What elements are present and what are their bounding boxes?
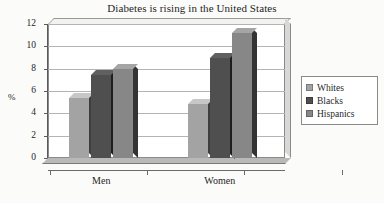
legend-item-label: Blacks xyxy=(317,96,343,106)
bar-front-face xyxy=(91,75,111,158)
bar-front-face xyxy=(69,98,89,158)
x-axis-category-label: Women xyxy=(190,175,250,186)
plot-floor xyxy=(42,158,291,164)
bar-side-face xyxy=(133,64,138,158)
x-axis-category-label: Men xyxy=(71,175,131,186)
x-axis-tick xyxy=(342,170,343,175)
legend-item[interactable]: Blacks xyxy=(306,94,374,107)
y-axis-tick-label: 2 xyxy=(6,130,36,140)
bar-chart: Diabetes is rising in the United States … xyxy=(0,0,384,203)
bar xyxy=(69,98,89,158)
legend-item-label: Whites xyxy=(317,83,344,93)
legend-swatch-icon xyxy=(306,84,313,91)
bar xyxy=(210,58,230,159)
bar-front-face xyxy=(188,104,208,158)
x-axis-line xyxy=(48,170,285,171)
y-axis-tick-label: 4 xyxy=(6,107,36,117)
bar xyxy=(113,69,133,158)
plot-depth-right xyxy=(285,18,291,158)
legend: WhitesBlacksHispanics xyxy=(301,76,378,125)
y-axis-tick-label: 10 xyxy=(6,40,36,50)
y-axis-tick-label: 6 xyxy=(6,85,36,95)
bar-front-face xyxy=(113,69,133,158)
gridline xyxy=(48,24,285,25)
bar xyxy=(188,104,208,158)
y-axis-tick-label: 12 xyxy=(6,18,36,28)
bar-side-face xyxy=(252,28,257,158)
x-axis-tick xyxy=(50,170,51,175)
legend-item[interactable]: Whites xyxy=(306,81,374,94)
bar-front-face xyxy=(210,58,230,159)
x-axis-tick xyxy=(147,170,148,175)
legend-swatch-icon xyxy=(306,110,313,117)
y-axis-tick-label: 8 xyxy=(6,63,36,73)
bar xyxy=(91,75,111,158)
bar xyxy=(232,33,252,158)
chart-title: Diabetes is rising in the United States xyxy=(0,2,384,14)
legend-item-label: Hispanics xyxy=(317,109,354,119)
legend-item[interactable]: Hispanics xyxy=(306,107,374,120)
bar-front-face xyxy=(232,33,252,158)
y-axis-tick-label: 0 xyxy=(6,152,36,162)
legend-swatch-icon xyxy=(306,97,313,104)
plot-area xyxy=(48,24,285,158)
